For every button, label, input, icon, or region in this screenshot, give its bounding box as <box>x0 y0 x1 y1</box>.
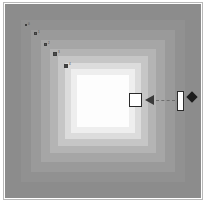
data-marker-m3[interactable] <box>44 43 47 46</box>
figure-canvas: ⌐ 01234 <box>0 0 207 204</box>
data-marker-m1[interactable] <box>25 24 27 26</box>
data-marker-label-m3: 2 <box>48 42 50 45</box>
gradient-band-8 <box>77 75 129 127</box>
data-marker-m2[interactable] <box>34 32 37 35</box>
target-square-outline[interactable] <box>129 93 142 107</box>
data-marker-label-m2: 1 <box>38 31 40 34</box>
vertical-bar-marker[interactable] <box>177 91 184 111</box>
dashed-connector-line <box>156 100 175 101</box>
data-marker-m4[interactable] <box>53 52 57 56</box>
data-marker-label-m5: 4 <box>69 63 71 66</box>
left-arrow-icon <box>145 95 154 105</box>
data-marker-m5[interactable] <box>64 64 68 68</box>
data-marker-label-m4: 3 <box>58 51 60 54</box>
data-marker-label-m1: 0 <box>28 23 30 26</box>
